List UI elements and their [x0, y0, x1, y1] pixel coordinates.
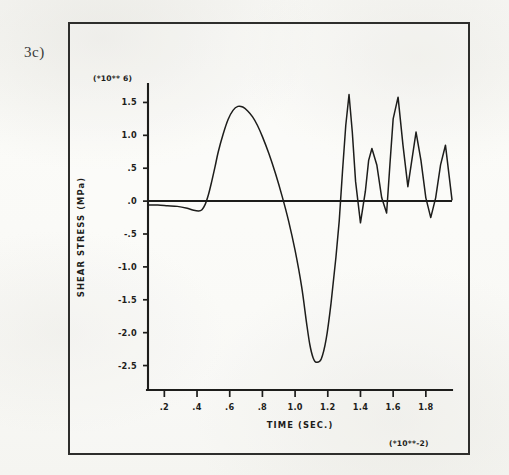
y-axis-multiplier-label: (*10** 6) — [93, 74, 132, 83]
x-axis-multiplier-label: (*10**-2) — [389, 439, 429, 448]
x-axis-title: TIME (SEC.) — [267, 420, 334, 430]
y-tick-label: -1.5 — [118, 295, 137, 305]
y-tick-label: -1.0 — [118, 262, 137, 272]
chart-canvas: 1.51.0.5.0-.5-1.0-1.5-2.0-2.5 .2.4.6.81.… — [0, 0, 509, 475]
y-tick-label: -2.5 — [118, 361, 137, 371]
y-axis-title: SHEAR STRESS (MPa) — [76, 177, 86, 297]
y-tick-label: 1.5 — [122, 97, 137, 107]
x-tick-label: .6 — [225, 402, 234, 412]
y-tick-label: .5 — [128, 163, 137, 173]
x-tick-label: 1.0 — [287, 402, 302, 412]
x-tick-label: .2 — [160, 402, 169, 412]
x-tick-label: 1.8 — [418, 402, 433, 412]
y-tick-label: 1.0 — [122, 130, 137, 140]
x-tick-label: 1.4 — [353, 402, 368, 412]
x-tick-label: 1.6 — [385, 402, 400, 412]
x-tick-label: .4 — [192, 402, 201, 412]
y-tick-label: -2.0 — [118, 328, 137, 338]
data-series-line — [148, 95, 452, 363]
y-tick-label: .0 — [128, 196, 137, 206]
y-axis-tick-labels: 1.51.0.5.0-.5-1.0-1.5-2.0-2.5 — [118, 97, 137, 370]
y-tick-label: -.5 — [124, 229, 137, 239]
x-tick-label: .8 — [258, 402, 267, 412]
x-tick-label: 1.2 — [320, 402, 335, 412]
x-axis-tick-labels: .2.4.6.81.01.21.41.61.8 — [160, 402, 434, 412]
